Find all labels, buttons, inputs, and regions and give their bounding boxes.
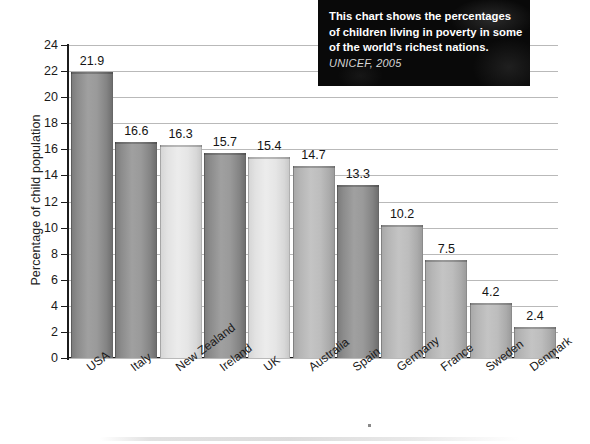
y-axis-tick-label: 8: [4, 247, 58, 261]
bar-top-edge: [115, 142, 157, 144]
y-axis-tick-mark: [61, 306, 68, 307]
y-axis-tick-mark: [61, 280, 68, 281]
bar-australia: [293, 166, 335, 358]
y-axis-tick-mark: [61, 202, 68, 203]
y-axis-tick-mark: [61, 149, 68, 150]
caption-text: This chart shows the percentages of chil…: [329, 9, 524, 56]
y-axis-tick-label: 12: [4, 195, 58, 209]
scan-speck: [368, 424, 371, 427]
bar-top-edge: [71, 72, 113, 74]
y-axis-tick-label: 0: [4, 351, 58, 365]
gridline: [69, 97, 558, 98]
y-axis-tick-mark: [61, 358, 68, 359]
y-axis-tick-label: 24: [4, 38, 58, 52]
y-axis-tick-labels: 242220181614121086420: [0, 0, 58, 444]
bar-value-label: 21.9: [62, 54, 122, 68]
scan-artifact: [100, 437, 520, 441]
bar-value-label: 4.2: [461, 285, 521, 299]
y-axis-tick-mark: [61, 332, 68, 333]
bar-value-label: 13.3: [328, 167, 388, 181]
plot-area: [69, 45, 558, 358]
y-axis-tick-label: 22: [4, 64, 58, 78]
bar-top-edge: [381, 225, 423, 227]
bar-top-edge: [514, 327, 556, 329]
y-axis-tick-mark: [61, 254, 68, 255]
bar-value-label: 14.7: [284, 148, 344, 162]
caption-callout: This chart shows the percentages of chil…: [318, 0, 530, 86]
y-axis-tick-mark: [61, 97, 68, 98]
y-axis-tick-label: 20: [4, 90, 58, 104]
bar-top-edge: [470, 303, 512, 305]
bar-new-zealand: [160, 145, 202, 358]
caption-source: UNICEF, 2005: [329, 57, 402, 69]
y-axis-tick-label: 4: [4, 299, 58, 313]
bar-top-edge: [337, 185, 379, 187]
y-axis-tick-mark: [61, 175, 68, 176]
y-axis-tick-label: 14: [4, 168, 58, 182]
bar-value-label: 10.2: [372, 207, 432, 221]
y-axis-tick-mark: [61, 45, 68, 46]
y-axis-tick-label: 18: [4, 116, 58, 130]
bar-top-edge: [425, 260, 467, 262]
bar-usa: [71, 72, 113, 358]
bar-chart-figure: Percentage of child population 242220181…: [0, 0, 590, 444]
y-axis-tick-mark: [61, 123, 68, 124]
y-axis-tick-label: 6: [4, 273, 58, 287]
bar-value-label: 7.5: [416, 242, 476, 256]
y-axis-tick-mark: [61, 228, 68, 229]
bar-italy: [115, 142, 157, 358]
y-axis-tick-label: 16: [4, 142, 58, 156]
y-axis-tick-label: 10: [4, 221, 58, 235]
y-axis-tick-label: 2: [4, 325, 58, 339]
bar-uk: [248, 157, 290, 358]
bar-top-edge: [204, 153, 246, 155]
y-axis-tick-mark: [61, 71, 68, 72]
bar-value-label: 2.4: [505, 309, 565, 323]
